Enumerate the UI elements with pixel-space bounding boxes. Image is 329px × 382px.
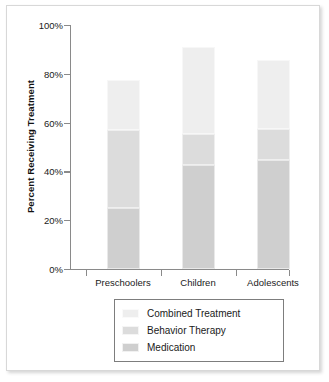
legend-swatch-icon bbox=[122, 343, 139, 352]
y-tick-mark bbox=[64, 269, 70, 270]
legend-swatch-icon bbox=[122, 326, 139, 335]
legend-item[interactable]: Combined Treatment bbox=[122, 305, 276, 322]
x-tick-mark bbox=[236, 270, 237, 276]
legend-label: Combined Treatment bbox=[147, 308, 240, 319]
bar-stack bbox=[182, 25, 215, 269]
x-tick-mark bbox=[289, 270, 290, 276]
x-axis-line bbox=[70, 269, 289, 270]
legend-item[interactable]: Medication bbox=[122, 339, 276, 356]
chart-legend: Combined TreatmentBehavior TherapyMedica… bbox=[114, 299, 284, 362]
bar-segment bbox=[107, 80, 140, 130]
x-category-label-preschoolers: Preschoolers bbox=[95, 277, 150, 288]
legend-swatch-icon bbox=[122, 309, 139, 318]
x-tick-mark bbox=[86, 270, 87, 276]
bar-segment bbox=[257, 129, 290, 161]
bar-segment bbox=[107, 130, 140, 208]
bar-segment bbox=[257, 160, 290, 269]
legend-label: Behavior Therapy bbox=[147, 325, 226, 336]
x-category-label-adolescents: Adolescents bbox=[247, 277, 299, 288]
legend-label: Medication bbox=[147, 342, 195, 353]
bar-segment bbox=[257, 60, 290, 128]
chart-plot-area: Percent Receiving Treatment 0%20%40%60%8… bbox=[7, 6, 321, 372]
bars-layer bbox=[7, 25, 321, 269]
x-category-label-children: Children bbox=[180, 277, 215, 288]
bar-segment bbox=[182, 47, 215, 134]
bar-segment bbox=[107, 208, 140, 269]
bar-stack bbox=[107, 25, 140, 269]
bar-segment bbox=[182, 134, 215, 166]
legend-item[interactable]: Behavior Therapy bbox=[122, 322, 276, 339]
figure-frame: Percent Receiving Treatment 0%20%40%60%8… bbox=[6, 5, 320, 371]
x-tick-mark bbox=[161, 270, 162, 276]
bar-stack bbox=[257, 25, 290, 269]
bar-segment bbox=[182, 165, 215, 269]
